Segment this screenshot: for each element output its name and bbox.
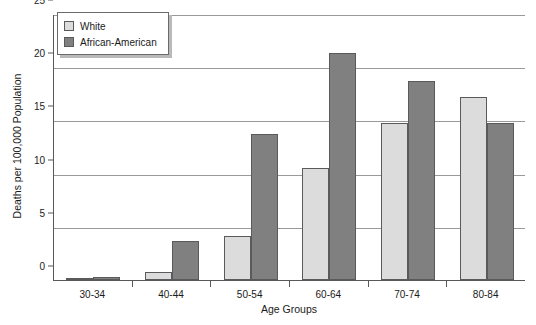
x-tick-mark: [446, 281, 447, 287]
x-tick-label: 80-84: [473, 289, 499, 300]
y-tick-label: 25: [5, 0, 45, 6]
bar-60-64-white: [302, 168, 329, 280]
legend-swatch-icon-white: [64, 21, 74, 31]
y-tick-label: 20: [5, 48, 45, 59]
y-tick-mark: [48, 0, 53, 1]
gridline: [54, 175, 525, 176]
x-axis-ticks: 30-3440-4450-5460-6470-7480-84: [53, 281, 525, 305]
x-tick-label: 40-44: [158, 289, 184, 300]
y-tick-label: 5: [5, 207, 45, 218]
x-tick-label: 30-34: [80, 289, 106, 300]
bar-70-74-african-american: [408, 81, 435, 280]
bar-50-54-white: [224, 236, 251, 280]
x-tick-mark: [368, 281, 369, 287]
bar-80-84-african-american: [487, 123, 514, 280]
legend-item-african-american: African-American: [64, 34, 162, 50]
x-tick-mark: [210, 281, 211, 287]
x-axis-title: Age Groups: [53, 303, 525, 315]
legend-label-white: White: [80, 21, 106, 32]
gridline: [54, 68, 525, 69]
y-tick-label: 0: [5, 261, 45, 272]
x-tick-mark: [132, 281, 133, 287]
gridline: [54, 228, 525, 229]
legend-swatch-icon-african-american: [64, 37, 74, 47]
y-tick-label: 15: [5, 101, 45, 112]
bar-50-54-african-american: [251, 134, 278, 280]
bar-chart: Deaths per 100,000 Population 0510152025…: [0, 0, 536, 325]
x-tick-mark: [289, 281, 290, 287]
bar-80-84-white: [460, 97, 487, 280]
chart-legend: White African-American: [57, 12, 169, 55]
bar-30-34-african-american: [93, 277, 120, 280]
bar-40-44-white: [145, 272, 172, 281]
legend-label-african-american: African-American: [80, 37, 157, 48]
y-tick-label: 10: [5, 154, 45, 165]
bar-30-34-white: [66, 278, 93, 280]
x-tick-label: 60-64: [316, 289, 342, 300]
gridline: [54, 121, 525, 122]
legend-item-white: White: [64, 18, 162, 34]
y-axis-ticks: 0510152025: [0, 0, 53, 266]
x-tick-label: 50-54: [237, 289, 263, 300]
bar-60-64-african-american: [329, 53, 356, 280]
bar-40-44-african-american: [172, 241, 199, 280]
x-tick-label: 70-74: [394, 289, 420, 300]
bar-70-74-white: [381, 123, 408, 280]
